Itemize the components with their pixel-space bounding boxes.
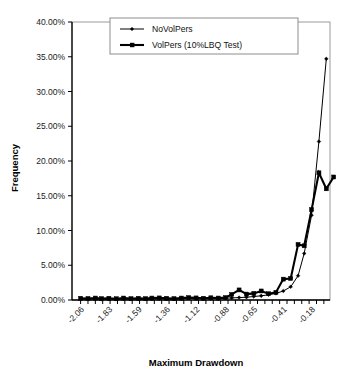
y-tick-label: 40.00% <box>36 17 65 27</box>
square-marker <box>274 290 278 294</box>
square-marker <box>281 277 285 281</box>
y-tick-label: 30.00% <box>36 87 65 97</box>
y-tick-label: 10.00% <box>36 226 65 236</box>
frequency-line-chart: 0.00%5.00%10.00%15.00%20.00%25.00%30.00%… <box>0 0 350 376</box>
x-axis-title: Maximum Drawdown <box>149 357 244 368</box>
square-marker <box>172 297 176 301</box>
square-marker <box>267 292 271 296</box>
square-marker <box>157 296 161 300</box>
square-marker <box>179 296 183 300</box>
y-tick-label: 20.00% <box>36 156 65 166</box>
square-marker <box>107 296 111 300</box>
square-marker <box>114 297 118 301</box>
square-marker <box>194 296 198 300</box>
y-axis-tick-labels: 0.00%5.00%10.00%15.00%20.00%25.00%30.00%… <box>36 17 65 305</box>
square-marker <box>252 291 256 295</box>
square-marker <box>86 296 90 300</box>
legend-label: VolPers (10%LBQ Test) <box>152 40 242 50</box>
square-marker <box>136 296 140 300</box>
square-marker <box>230 292 234 296</box>
square-marker <box>79 296 83 300</box>
square-marker <box>259 289 263 293</box>
y-tick-label: 25.00% <box>36 121 65 131</box>
square-marker <box>93 296 97 300</box>
y-tick-label: 35.00% <box>36 52 65 62</box>
square-marker <box>165 296 169 300</box>
legend-label: NoVolPers <box>152 24 193 34</box>
chart-legend: NoVolPersVolPers (10%LBQ Test) <box>110 18 298 54</box>
square-marker <box>209 296 213 300</box>
square-marker <box>302 244 306 248</box>
square-marker <box>296 242 300 246</box>
square-marker <box>317 171 321 175</box>
square-marker <box>130 43 134 47</box>
square-marker <box>150 296 154 300</box>
square-marker <box>129 297 133 301</box>
y-tick-label: 0.00% <box>41 295 66 305</box>
square-marker <box>237 288 241 292</box>
chart-container: 0.00%5.00%10.00%15.00%20.00%25.00%30.00%… <box>0 0 350 376</box>
square-marker <box>224 296 228 300</box>
square-marker <box>324 187 328 191</box>
square-marker <box>332 175 336 179</box>
square-marker <box>289 276 293 280</box>
y-axis-title: Frequency <box>9 143 20 192</box>
y-tick-label: 15.00% <box>36 191 65 201</box>
square-marker <box>201 296 205 300</box>
square-marker <box>216 296 220 300</box>
square-marker <box>144 297 148 301</box>
square-marker <box>310 208 314 212</box>
square-marker <box>122 296 126 300</box>
y-tick-label: 5.00% <box>41 260 66 270</box>
square-marker <box>99 297 103 301</box>
square-marker <box>244 292 248 296</box>
square-marker <box>187 296 191 300</box>
